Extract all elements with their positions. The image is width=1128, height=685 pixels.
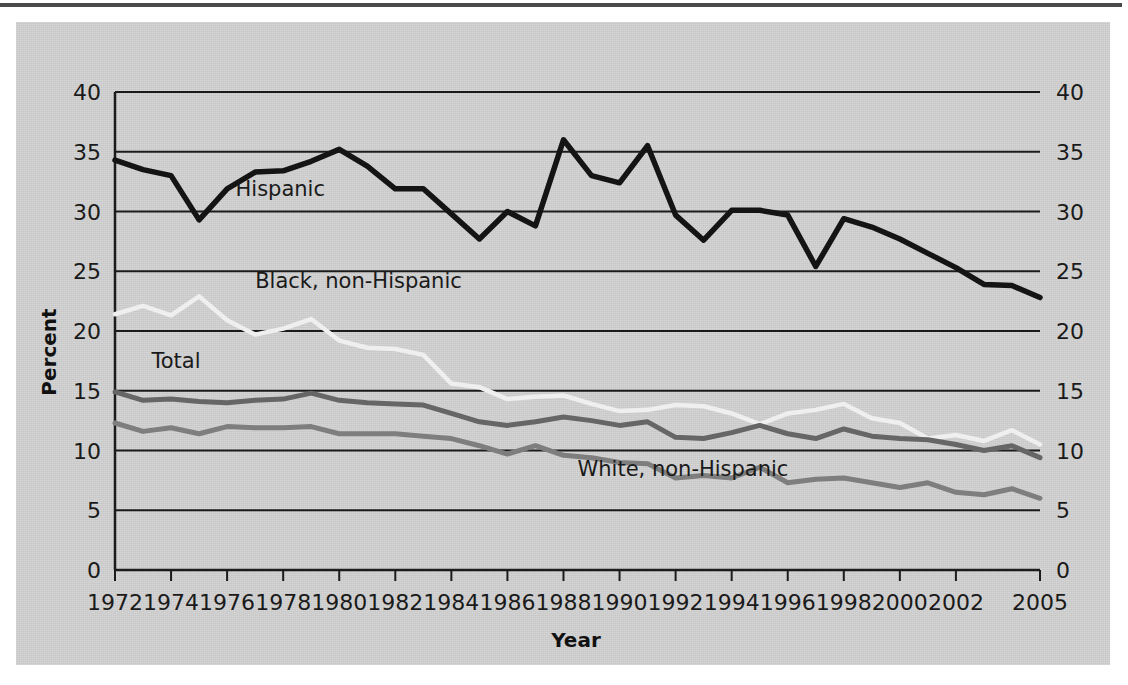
y-tick-label-left: 10 [73,439,101,464]
y-tick-label-right: 0 [1056,558,1070,583]
x-tick-label: 1980 [311,590,367,615]
y-tick-label-left: 35 [73,140,101,165]
y-tick-label-right: 15 [1056,379,1084,404]
series-label-1: Black, non-Hispanic [255,269,462,293]
x-tick-label: 1984 [423,590,479,615]
y-tick-label-left: 30 [73,200,101,225]
x-axis-tick-labels: 1972197419761978198019821984198619881990… [87,590,1068,615]
x-tick-label: 2000 [872,590,928,615]
x-tick-label: 1996 [760,590,816,615]
y-tick-label-left: 20 [73,319,101,344]
series-line-1 [115,296,1040,444]
series-label-0: Hispanic [236,177,325,201]
y-axis-title: Percent [37,308,61,396]
x-tick-label: 1974 [143,590,199,615]
gridlines-group [115,92,1040,570]
y-tick-label-right: 40 [1056,80,1084,105]
y-tick-label-left: 5 [87,498,101,523]
x-tick-label: 2002 [928,590,984,615]
y-tick-label-left: 40 [73,80,101,105]
series-label-2: Total [150,349,200,373]
x-tick-label: 1976 [199,590,255,615]
x-tick-label: 1978 [255,590,311,615]
x-tick-label: 1982 [367,590,423,615]
series-line-0 [115,140,1040,298]
x-tick-label: 1986 [479,590,535,615]
x-axis-title: Year [550,628,601,652]
y-tick-label-left: 15 [73,379,101,404]
x-tick-label: 2005 [1012,590,1068,615]
y-tick-label-right: 35 [1056,140,1084,165]
y-tick-label-right: 10 [1056,439,1084,464]
y-tick-label-left: 0 [87,558,101,583]
y-axis-tick-labels-left: 0510152025303540 [73,80,101,583]
x-tick-label: 1972 [87,590,143,615]
x-tick-label: 1988 [535,590,591,615]
series-label-3: White, non-Hispanic [578,457,789,481]
x-tickmarks [115,570,1040,581]
line-chart: 0510152025303540 0510152025303540 197219… [16,22,1110,665]
y-tick-label-right: 25 [1056,259,1084,284]
x-tick-label: 1992 [648,590,704,615]
x-tick-label: 1990 [592,590,648,615]
chart-panel: 0510152025303540 0510152025303540 197219… [16,22,1110,665]
y-tick-label-right: 30 [1056,200,1084,225]
y-tick-label-left: 25 [73,259,101,284]
y-tick-label-right: 5 [1056,498,1070,523]
top-divider-rule [0,3,1122,7]
x-tick-label: 1994 [704,590,760,615]
y-axis-tick-labels-right: 0510152025303540 [1056,80,1084,583]
y-tick-label-right: 20 [1056,319,1084,344]
x-tick-label: 1998 [816,590,872,615]
